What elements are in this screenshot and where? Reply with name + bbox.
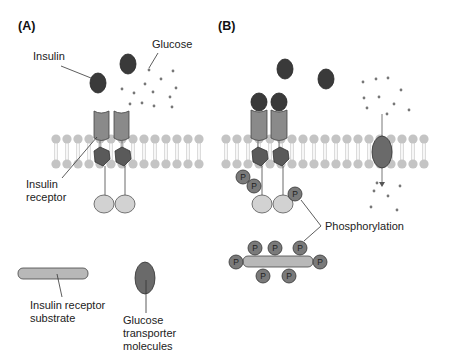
insulin-receptor-b: [251, 93, 293, 213]
insulin-pointer: [61, 66, 91, 78]
svg-text:P: P: [233, 257, 239, 267]
glucose-pointer: [149, 53, 158, 68]
label-irs-2: substrate: [30, 312, 75, 324]
insulin-signaling-diagram: (A) (B) Insulin Glucose: [0, 0, 451, 364]
label-insulin: Insulin: [33, 50, 65, 62]
label-glucose: Glucose: [152, 38, 192, 50]
label-glut-3: molecules: [123, 340, 173, 352]
label-glut-2: transporter: [123, 327, 177, 339]
svg-text:P: P: [317, 257, 323, 267]
glucose-dots-a: [121, 69, 178, 109]
label-phosphorylation: Phosphorylation: [325, 220, 404, 232]
svg-text:P: P: [251, 181, 257, 191]
insulin-molecule: [318, 69, 334, 89]
glucose-transporter-b: [372, 114, 392, 187]
panel-label-b: (B): [218, 19, 235, 33]
label-insulin-receptor-2: receptor: [26, 191, 67, 203]
svg-text:P: P: [292, 189, 298, 199]
insulin-molecule: [90, 73, 106, 93]
label-glut-1: Glucose: [123, 314, 163, 326]
label-irs-1: Insulin receptor: [30, 299, 106, 311]
panel-label-a: (A): [18, 19, 35, 33]
svg-text:P: P: [286, 271, 292, 281]
receptor-phosphates: P P P: [236, 170, 302, 201]
irs-legend-shape: [18, 268, 88, 279]
svg-text:P: P: [260, 271, 266, 281]
glut-legend-shape: [135, 262, 155, 294]
label-insulin-receptor-1: Insulin: [26, 178, 58, 190]
insulin-molecule: [120, 54, 136, 74]
svg-text:P: P: [240, 172, 246, 182]
svg-text:P: P: [297, 243, 303, 253]
insulin-molecule: [277, 59, 293, 79]
svg-text:P: P: [272, 243, 278, 253]
svg-text:P: P: [252, 243, 258, 253]
phosphorylated-irs: P P P P P P P: [229, 241, 327, 283]
phosphorylation-bracket: [301, 200, 321, 241]
